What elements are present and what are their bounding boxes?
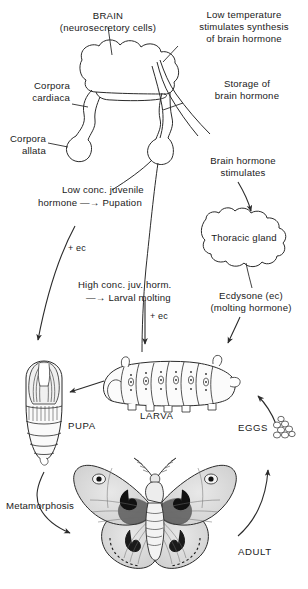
brain-subtitle-label: (neurosecretory cells) [36,22,180,34]
larva-stage-label: LARVA [140,410,173,422]
eggs-stage-label: EGGS [238,422,268,434]
brain-title-label: BRAIN [52,10,164,22]
brain-hormone-stimulates-label: Brain hormone stimulates [182,155,304,179]
adult-stage-label: ADULT [238,546,272,558]
pupa-stage-label: PUPA [68,420,96,432]
larva-to-pupa-arrow [70,381,104,392]
ecdysone-arrow [228,317,240,343]
pupa-illustration [26,361,62,465]
egg-cluster-icon [273,416,295,438]
low-conc-juvenile-hormone-line1: Low conc. juvenile [62,184,144,196]
metamorphosis-label: Metamorphosis [6,500,74,512]
brain-hormone-arrow [238,182,251,211]
high-conc-juvenile-hormone-line1: High conc. juv. horm. [78,279,171,291]
plus-ec-center-label: + ec [150,310,168,322]
eggs-to-larva-arrow [258,396,276,424]
thoracic-gland-label: Thoracic gland [198,232,290,244]
low-conc-juvenile-hormone-line2: hormone —→ Pupation [38,197,142,209]
adult-to-eggs-arrow [238,470,268,536]
thoracic-gland-illustration [201,208,285,288]
low-temperature-label: Low temperature stimulates synthesis of … [182,9,306,45]
adult-moth-illustration [74,458,237,568]
storage-brain-hormone-label: Storage of brain hormone [188,78,306,102]
high-conc-juvenile-hormone-line2: —→ Larval molting [86,292,171,304]
figure-canvas: BRAIN (neurosecretory cells) Low tempera… [0,0,308,589]
larva-illustration [103,355,240,412]
corpora-allata-label: Corpora allata [2,133,46,157]
ecdysone-label: Ecdysone (ec) (molting hormone) [196,290,306,314]
brain-illustration [48,27,210,165]
corpora-cardiaca-label: Corpora cardiaca [2,80,70,104]
plus-ec-left-label: + ec [68,242,86,254]
